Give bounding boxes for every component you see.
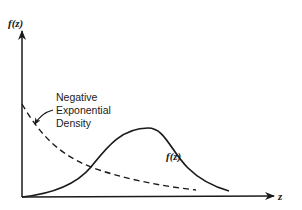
annotation-arrow-icon bbox=[35, 110, 53, 124]
curve-label: f(z) bbox=[166, 150, 181, 163]
x-axis-label: z bbox=[277, 190, 283, 202]
y-axis-label: f(z) bbox=[8, 17, 23, 30]
density-comparison-figure: f(z) z Negative Exponential Density f(z) bbox=[0, 0, 302, 210]
x-axis bbox=[22, 196, 274, 197]
annotation-line-2: Exponential bbox=[56, 104, 111, 116]
fz-curve bbox=[22, 128, 229, 197]
annotation-line-1: Negative bbox=[56, 91, 98, 103]
annotation-line-3: Density bbox=[56, 117, 92, 129]
